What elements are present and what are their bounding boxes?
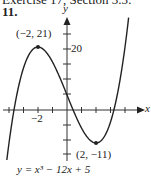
y-tick-label-20: 20 [71, 42, 82, 54]
x-axis-arrow-icon [137, 107, 145, 114]
equation-label: y = x³ − 12x + 5 [17, 163, 90, 175]
min-point-label: (2, −11) [76, 148, 111, 160]
x-axis-label: x [145, 102, 150, 114]
y-axis-arrow-icon [64, 17, 71, 25]
local-min-point [94, 141, 98, 145]
local-max-point [36, 45, 40, 49]
max-point-label: (−2, 21) [16, 27, 52, 39]
y-axis-label: y [63, 2, 68, 14]
x-tick-label-neg2: −2 [31, 112, 43, 124]
cubic-curve [7, 18, 129, 160]
